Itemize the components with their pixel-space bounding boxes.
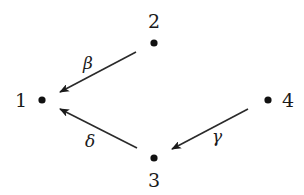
- node-1-label: 1: [15, 89, 27, 111]
- node-2-label: 2: [148, 10, 160, 32]
- edge-labels: β δ γ: [82, 53, 223, 151]
- nodes: [38, 39, 271, 161]
- node-4-dot: [264, 96, 271, 103]
- node-3-label: 3: [148, 169, 160, 191]
- directed-graph: β δ γ 1 2 3 4: [0, 0, 304, 195]
- edge-label-beta: β: [82, 53, 93, 73]
- node-2-dot: [150, 39, 157, 46]
- edge-2-to-1: [60, 52, 136, 92]
- node-1-dot: [38, 96, 45, 103]
- edge-label-gamma: γ: [212, 126, 223, 146]
- edge-3-to-1: [60, 109, 137, 148]
- node-3-dot: [150, 154, 157, 161]
- node-4-label: 4: [282, 89, 294, 111]
- edge-4-to-3: [172, 109, 248, 149]
- edge-label-delta: δ: [85, 131, 95, 151]
- node-labels: 1 2 3 4: [15, 10, 294, 191]
